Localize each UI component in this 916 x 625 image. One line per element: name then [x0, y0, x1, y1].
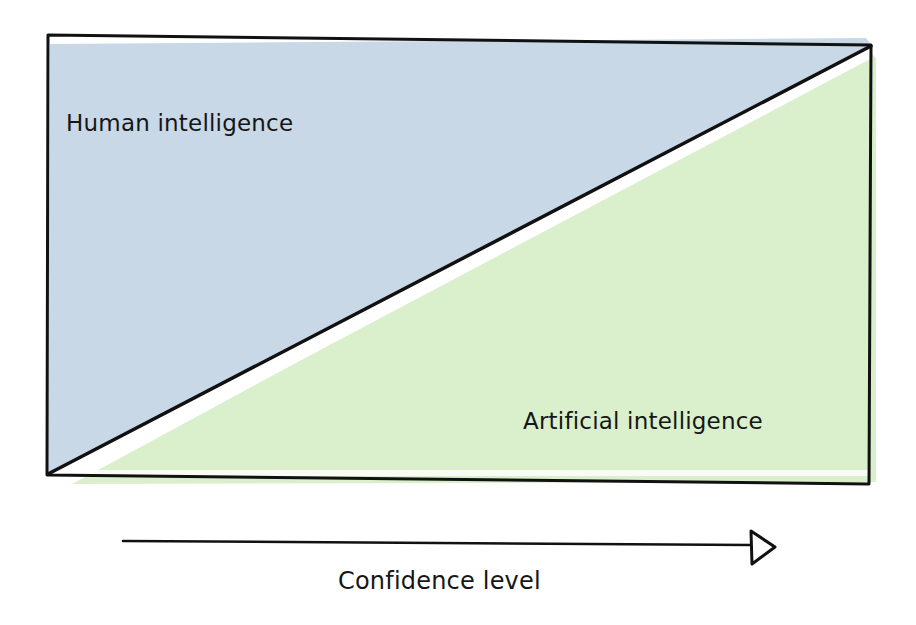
ai-intelligence-label: Artificial intelligence [523, 408, 763, 434]
confidence-level-label: Confidence level [338, 567, 541, 595]
arrow-head-icon [751, 531, 775, 564]
human-intelligence-label: Human intelligence [66, 110, 293, 136]
diagram-canvas [0, 0, 916, 625]
confidence-axis-line [123, 541, 750, 545]
